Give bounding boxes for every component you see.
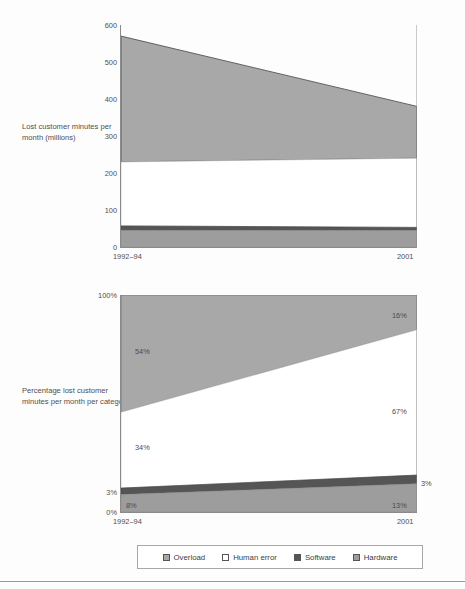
legend-swatch-software-icon [294,554,301,561]
ytick-500: 500 [95,58,117,67]
area-human-error [121,158,417,227]
legend-item-software[interactable]: Software [294,553,336,562]
chart-percentage-plot-area [120,295,417,513]
ytick-300: 300 [95,132,117,141]
legend-item-overload[interactable]: Overload [163,553,206,562]
label-human-error-left: 34% [135,443,150,452]
legend-label-overload: Overload [174,553,206,562]
ytick-100pct: 100% [88,291,117,300]
xtick-2001: 2001 [397,517,413,526]
figure-page: Lost customer minutes per month (million… [0,0,465,589]
legend-label-software: Software [305,553,336,562]
chart-percentage-y-axis-label: Percentage lost customer minutes per mon… [22,386,130,407]
chart-percentage-svg [121,295,417,512]
label-overload-left: 54% [135,347,150,356]
chart-absolute: Lost customer minutes per month (million… [0,0,465,275]
label-overload-right: 16% [392,311,407,320]
area-overload [121,36,417,162]
ytick-100: 100 [95,206,117,215]
chart-percentage: Percentage lost customer minutes per mon… [0,285,465,535]
legend-swatch-hardware-icon [353,554,360,561]
label-human-error-right: 67% [392,407,407,416]
chart-absolute-svg [121,25,417,247]
legend-swatch-overload-icon [163,554,170,561]
xtick-1992-94: 1992–94 [113,252,142,261]
ytick-3pct: 3% [88,488,117,497]
ytick-200: 200 [95,169,117,178]
chart-absolute-plot-area [120,25,417,248]
legend-swatch-human-error-icon [222,554,229,561]
label-hardware-left: 8% [126,501,137,510]
label-hardware-right: 13% [392,501,407,510]
legend-label-hardware: Hardware [364,553,398,562]
legend-item-human-error[interactable]: Human error [222,553,277,562]
xtick-2001: 2001 [397,252,413,261]
footer-divider [0,581,465,582]
ytick-600: 600 [95,21,117,30]
xtick-1992-94: 1992–94 [113,517,142,526]
chart-legend: Overload Human error Software Hardware [137,545,423,569]
ytick-0pct: 0% [88,508,117,517]
label-software-right: 3% [421,479,432,488]
ytick-0: 0 [95,243,117,252]
ytick-400: 400 [95,95,117,104]
legend-label-human-error: Human error [233,553,277,562]
area-hardware [121,230,417,247]
legend-item-hardware[interactable]: Hardware [353,553,398,562]
